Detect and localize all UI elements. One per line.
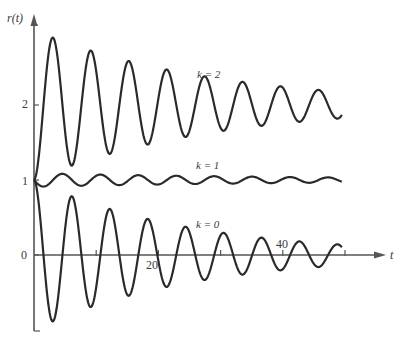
y-axis-arrow-icon — [31, 14, 38, 26]
series-label-k2: k = 2 — [197, 68, 221, 80]
y-tick-label-2: 2 — [22, 97, 28, 111]
y-tick-label-0: 0 — [21, 248, 27, 262]
response-chart: r(t) t 2 1 0 20 40 k = 2 k = 1 k = 0 — [0, 0, 409, 346]
x-tick-label-40: 40 — [276, 237, 288, 251]
series-label-k1: k = 1 — [196, 159, 219, 171]
curve-k2 — [34, 38, 342, 180]
x-axis-arrow-icon — [374, 252, 386, 259]
curves — [34, 38, 342, 322]
y-tick-label-1: 1 — [22, 174, 28, 188]
curve-k1 — [34, 174, 342, 187]
curve-k0 — [34, 180, 342, 321]
x-tick-label-20: 20 — [146, 258, 158, 272]
y-axis-label: r(t) — [7, 11, 23, 25]
x-axis-label: t — [390, 248, 394, 262]
series-label-k0: k = 0 — [196, 218, 220, 230]
